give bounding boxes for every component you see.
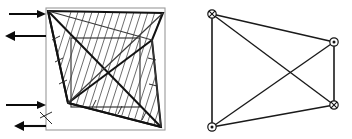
load-arrow-3 bbox=[6, 101, 46, 109]
marker-top-right bbox=[330, 38, 338, 46]
right-diagonal-bl-tr bbox=[212, 42, 334, 127]
right-panel bbox=[208, 10, 338, 131]
load-arrow-1 bbox=[9, 10, 46, 18]
marker-bottom-left bbox=[208, 123, 216, 131]
edge-left-deformed bbox=[48, 11, 68, 103]
diagonal-bl-tr bbox=[68, 40, 152, 103]
left-panel bbox=[5, 0, 211, 139]
load-arrow-2 bbox=[5, 31, 46, 41]
diagram-canvas bbox=[0, 0, 352, 139]
load-arrow-4 bbox=[14, 121, 46, 131]
marker-bottom-right bbox=[330, 101, 338, 109]
right-quad-bottom-edge bbox=[212, 105, 334, 127]
marker-top-left bbox=[208, 10, 216, 18]
figure-container bbox=[0, 0, 352, 139]
